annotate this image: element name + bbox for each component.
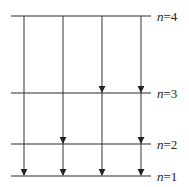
energy-levels [11, 16, 151, 176]
arrowhead-icon [60, 169, 67, 176]
level-label-value: =3 [164, 86, 178, 101]
level-label-value: =2 [164, 137, 178, 152]
level-label-n1: n=1 [157, 169, 177, 184]
arrowhead-icon [99, 169, 106, 176]
level-label-n2: n=2 [157, 137, 177, 152]
level-label-value: =4 [164, 9, 178, 24]
level-label-n4: n=4 [157, 9, 178, 24]
energy-level-diagram: n=4n=3n=2n=1 [0, 0, 189, 187]
level-labels: n=4n=3n=2n=1 [157, 9, 178, 184]
arrowhead-icon [138, 169, 145, 176]
arrowhead-icon [138, 86, 145, 93]
level-label-value: =1 [164, 169, 178, 184]
arrowhead-icon [99, 86, 106, 93]
level-label-n3: n=3 [157, 86, 177, 101]
transitions [21, 16, 145, 176]
arrowhead-icon [138, 137, 145, 144]
arrowhead-icon [21, 169, 28, 176]
arrowhead-icon [60, 137, 67, 144]
